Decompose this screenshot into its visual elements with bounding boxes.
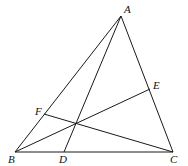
segment-ca [121, 16, 173, 152]
segment-cf [44, 114, 173, 152]
label-a: A [123, 3, 131, 15]
label-b: B [8, 153, 15, 165]
geometry-diagram: ABCDEF [0, 0, 188, 166]
label-e: E [152, 79, 160, 91]
segment-be [15, 89, 150, 152]
triangle-figure: ABCDEF [0, 0, 188, 166]
label-d: D [58, 153, 67, 165]
label-c: C [170, 153, 178, 165]
segment-ad [64, 16, 121, 152]
label-f: F [34, 105, 42, 117]
